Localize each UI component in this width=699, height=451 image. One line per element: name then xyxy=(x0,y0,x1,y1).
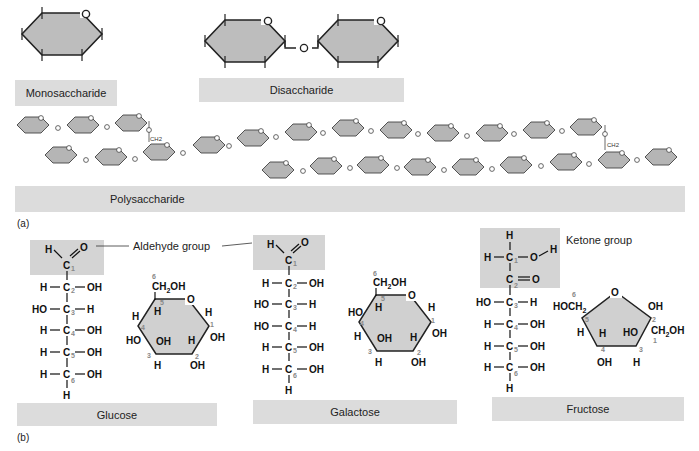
svg-text:OH: OH xyxy=(87,369,102,380)
svg-text:C: C xyxy=(285,321,292,332)
svg-text:H: H xyxy=(309,321,316,332)
svg-text:OH: OH xyxy=(309,364,324,375)
svg-text:H: H xyxy=(550,244,557,255)
fructose-ring: O 6 HOCH2 5 H H4 OH OH2 HO CH2OH 1 3 H xyxy=(553,286,684,368)
svg-text:OH: OH xyxy=(87,325,102,336)
glucose-linear: H O C1 H C2 OH HO C3 H H C4 OH H C5 OH H… xyxy=(32,242,102,401)
svg-text:CH2OH: CH2OH xyxy=(152,281,185,294)
svg-text:1: 1 xyxy=(71,265,75,272)
svg-text:H: H xyxy=(262,278,269,289)
svg-text:C: C xyxy=(506,362,513,373)
svg-text:2: 2 xyxy=(417,349,421,356)
svg-text:5: 5 xyxy=(585,316,589,323)
svg-text:6: 6 xyxy=(152,273,156,280)
svg-text:C: C xyxy=(506,319,513,330)
svg-text:H: H xyxy=(205,307,212,318)
svg-text:5: 5 xyxy=(514,346,518,353)
svg-text:H: H xyxy=(132,311,139,322)
svg-text:3: 3 xyxy=(71,309,75,316)
svg-text:H: H xyxy=(506,383,513,394)
svg-text:3: 3 xyxy=(639,346,643,353)
svg-text:1: 1 xyxy=(293,260,297,267)
svg-text:OH: OH xyxy=(530,362,545,373)
svg-text:OH: OH xyxy=(156,336,171,347)
svg-text:C: C xyxy=(63,282,70,293)
fructose-label: Fructose xyxy=(492,397,684,421)
svg-text:C: C xyxy=(285,342,292,353)
galactose-text: Galactose xyxy=(330,406,380,418)
galactose-linear: H O C1 H C2 OH HO C3 H HO C4 H H C5 OH H… xyxy=(254,237,324,396)
svg-text:4: 4 xyxy=(514,324,518,331)
svg-text:OH: OH xyxy=(377,333,392,344)
svg-text:1: 1 xyxy=(514,257,518,264)
fructose-text: Fructose xyxy=(567,403,610,415)
svg-text:4: 4 xyxy=(141,324,145,331)
svg-text:6: 6 xyxy=(293,372,297,379)
svg-text:1: 1 xyxy=(653,337,657,344)
svg-text:C: C xyxy=(285,364,292,375)
svg-text:OH: OH xyxy=(210,332,225,343)
svg-text:H: H xyxy=(40,282,47,293)
svg-text:H: H xyxy=(484,362,491,373)
svg-text:C: C xyxy=(63,325,70,336)
svg-text:HO: HO xyxy=(348,307,363,318)
svg-text:2: 2 xyxy=(293,283,297,290)
svg-text:HO: HO xyxy=(254,299,269,310)
svg-text:H: H xyxy=(354,331,361,342)
panel-b-tag: (b) xyxy=(17,432,29,443)
svg-text:C: C xyxy=(285,299,292,310)
svg-text:C: C xyxy=(506,341,513,352)
glucose-label: Glucose xyxy=(17,403,217,426)
glucose-ring: O 6 CH2OH 5H H1 OH H4 HO OH H2 3 H OH xyxy=(126,273,225,371)
svg-text:2: 2 xyxy=(652,316,656,323)
svg-text:H: H xyxy=(188,335,195,346)
svg-text:6: 6 xyxy=(514,370,518,377)
svg-text:H: H xyxy=(262,364,269,375)
svg-text:2: 2 xyxy=(514,282,518,289)
svg-text:H: H xyxy=(45,244,52,255)
svg-text:H: H xyxy=(506,230,513,241)
svg-text:H: H xyxy=(154,360,161,371)
svg-text:5: 5 xyxy=(71,352,75,359)
galactose-label: Galactose xyxy=(253,400,457,424)
svg-text:HO: HO xyxy=(254,321,269,332)
svg-text:C: C xyxy=(506,252,513,263)
fructose-linear: H H C1 O H C2 O HO C3 H H C4 OH H C5 OH … xyxy=(476,230,557,394)
svg-text:4: 4 xyxy=(293,326,297,333)
svg-text:H: H xyxy=(285,385,292,396)
svg-text:3: 3 xyxy=(293,304,297,311)
svg-text:CH2OH: CH2OH xyxy=(373,277,406,290)
svg-text:O: O xyxy=(532,274,540,285)
svg-text:3: 3 xyxy=(514,302,518,309)
svg-text:H: H xyxy=(484,341,491,352)
svg-text:HO: HO xyxy=(126,335,141,346)
svg-text:3: 3 xyxy=(147,352,151,359)
svg-text:OH: OH xyxy=(309,278,324,289)
svg-text:4: 4 xyxy=(71,330,75,337)
svg-text:O: O xyxy=(80,242,88,253)
svg-text:H: H xyxy=(309,299,316,310)
svg-text:HO: HO xyxy=(32,304,47,315)
svg-text:OH: OH xyxy=(530,341,545,352)
svg-text:C: C xyxy=(506,274,513,285)
svg-text:C: C xyxy=(63,260,70,271)
svg-text:H: H xyxy=(530,297,537,308)
svg-text:HOCH2: HOCH2 xyxy=(553,301,586,314)
svg-text:H: H xyxy=(428,302,435,313)
svg-text:HO: HO xyxy=(476,297,491,308)
svg-text:H: H xyxy=(40,369,47,380)
svg-text:C: C xyxy=(506,297,513,308)
svg-text:O: O xyxy=(408,290,416,301)
svg-text:C: C xyxy=(285,278,292,289)
svg-text:6: 6 xyxy=(572,291,576,298)
svg-text:H: H xyxy=(484,319,491,330)
svg-text:H: H xyxy=(410,332,417,343)
svg-text:4: 4 xyxy=(601,346,605,353)
panel-b-drawing: H O C1 H C2 OH HO C3 H H C4 OH H C5 OH H… xyxy=(0,0,699,451)
svg-text:OH: OH xyxy=(309,342,324,353)
svg-text:4: 4 xyxy=(360,320,364,327)
svg-text:O: O xyxy=(530,252,538,263)
svg-text:H: H xyxy=(375,302,382,313)
svg-text:H: H xyxy=(40,325,47,336)
svg-text:C: C xyxy=(285,255,292,266)
